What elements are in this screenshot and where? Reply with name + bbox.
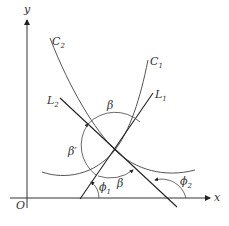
phi2-label: ϕ2 bbox=[180, 175, 193, 190]
curves-angle-diagram: y x O C2 C1 L1 L2 β β′ β ϕ1 ϕ2 bbox=[0, 0, 229, 226]
line-l2 bbox=[60, 98, 177, 207]
origin-label: O bbox=[16, 199, 25, 212]
x-axis-label: x bbox=[214, 191, 221, 204]
l1-label: L1 bbox=[154, 88, 167, 103]
beta-prime-label: β′ bbox=[67, 145, 77, 158]
l2-label: L2 bbox=[46, 94, 59, 109]
beta-bottom-arc bbox=[98, 170, 133, 178]
phi1-label: ϕ1 bbox=[99, 181, 111, 196]
beta-top-label: β bbox=[106, 99, 113, 112]
y-axis-label: y bbox=[23, 3, 31, 16]
phi1-arc bbox=[91, 182, 99, 198]
c1-label: C1 bbox=[150, 55, 163, 70]
beta-bottom-label: β bbox=[116, 177, 123, 190]
c2-label: C2 bbox=[52, 35, 65, 50]
